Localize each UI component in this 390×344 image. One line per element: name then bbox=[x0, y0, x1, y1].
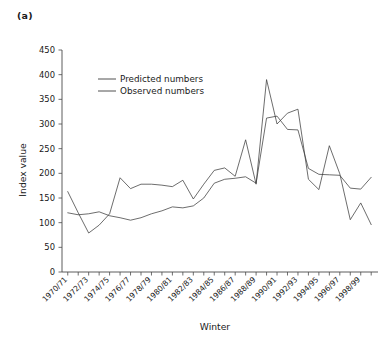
data-series-group bbox=[68, 80, 371, 233]
chart-legend: Predicted numbers Observed numbers bbox=[98, 74, 204, 96]
x-axis-title: Winter bbox=[200, 321, 231, 332]
y-tick-label: 450 bbox=[39, 45, 55, 55]
y-tick-label: 50 bbox=[44, 242, 55, 252]
x-axis: 1970/711972/731974/751976/771978/791980/… bbox=[40, 272, 378, 304]
legend-label-observed: Observed numbers bbox=[120, 86, 204, 96]
y-tick-label: 300 bbox=[39, 119, 55, 129]
y-tick-label: 0 bbox=[50, 267, 55, 277]
series-line-predicted-numbers bbox=[68, 116, 371, 220]
y-axis-title: Index value bbox=[17, 143, 28, 197]
y-tick-label: 100 bbox=[39, 218, 55, 228]
legend-label-predicted: Predicted numbers bbox=[120, 74, 203, 84]
figure-container: (a) 050100150200250300350400450 1970/711… bbox=[0, 0, 390, 344]
x-axis-ticks bbox=[68, 272, 371, 276]
y-axis: 050100150200250300350400450 bbox=[39, 45, 62, 277]
y-tick-label: 150 bbox=[39, 193, 55, 203]
line-chart: 050100150200250300350400450 1970/711972/… bbox=[0, 0, 390, 344]
y-axis-ticks bbox=[59, 50, 63, 272]
y-tick-label: 200 bbox=[39, 168, 55, 178]
y-tick-label: 400 bbox=[39, 70, 55, 80]
y-axis-tick-labels: 050100150200250300350400450 bbox=[39, 45, 55, 277]
y-tick-label: 250 bbox=[39, 144, 55, 154]
series-line-observed-numbers bbox=[68, 80, 371, 233]
y-tick-label: 350 bbox=[39, 94, 55, 104]
x-axis-tick-labels: 1970/711972/731974/751976/771978/791980/… bbox=[40, 275, 362, 304]
